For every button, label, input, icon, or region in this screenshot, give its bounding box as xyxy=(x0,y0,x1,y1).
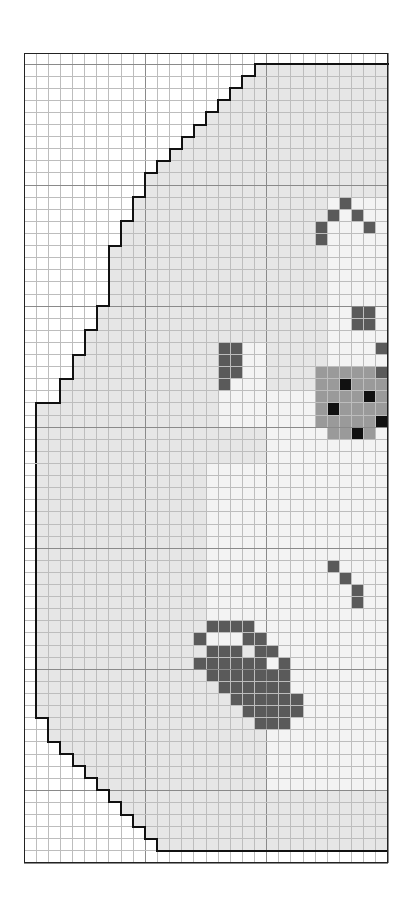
grid-line-horizontal xyxy=(24,366,388,367)
grid-line-horizontal xyxy=(24,499,388,500)
pattern-outline xyxy=(35,633,37,645)
grid-line-horizontal xyxy=(24,632,388,633)
grid-line-horizontal xyxy=(24,838,388,839)
pattern-outline xyxy=(84,330,86,342)
grid-line-horizontal xyxy=(24,778,388,779)
grid-line-horizontal xyxy=(24,487,388,488)
pattern-outline xyxy=(35,512,37,524)
pattern-outline xyxy=(35,609,37,621)
grid-line-horizontal xyxy=(24,148,388,149)
pattern-outline xyxy=(47,718,49,730)
pattern-outline xyxy=(132,826,146,828)
pattern-outline xyxy=(35,717,49,719)
grid-line-horizontal xyxy=(24,645,388,646)
pattern-outline xyxy=(35,669,37,681)
grid-line-horizontal xyxy=(24,524,388,525)
grid-line-horizontal xyxy=(24,754,388,755)
grid-line-horizontal xyxy=(24,729,388,730)
grid-line-horizontal xyxy=(24,790,388,791)
pattern-outline xyxy=(96,306,98,318)
grid-line-horizontal xyxy=(24,209,388,210)
grid-line-horizontal xyxy=(24,160,388,161)
stitch-chart-grid xyxy=(24,53,388,863)
grid-line-horizontal xyxy=(24,390,388,391)
grid-line-horizontal xyxy=(24,863,388,864)
grid-line-horizontal xyxy=(24,88,388,89)
grid-line-horizontal xyxy=(24,221,388,222)
grid-line-horizontal xyxy=(24,669,388,670)
pattern-outline xyxy=(35,560,37,572)
grid-line-horizontal xyxy=(24,548,388,549)
pattern-outline xyxy=(47,741,61,743)
grid-line-horizontal xyxy=(24,572,388,573)
pattern-outline xyxy=(35,536,37,548)
grid-line-horizontal xyxy=(24,439,388,440)
grid-line-horizontal xyxy=(24,741,388,742)
pattern-outline xyxy=(35,451,37,463)
pattern-outline xyxy=(35,403,37,415)
pattern-outline xyxy=(132,197,134,209)
grid-line-horizontal xyxy=(24,185,388,186)
pattern-outline xyxy=(35,681,37,693)
pattern-outline xyxy=(35,694,37,706)
pattern-outline xyxy=(205,111,219,113)
grid-line-horizontal xyxy=(24,172,388,173)
grid-line-horizontal xyxy=(24,657,388,658)
pattern-outline xyxy=(217,99,231,101)
pattern-outline xyxy=(156,160,170,162)
grid-line-horizontal xyxy=(24,584,388,585)
pattern-outline xyxy=(35,548,37,560)
pattern-outline xyxy=(144,838,158,840)
pattern-outline xyxy=(72,354,86,356)
grid-line-horizontal xyxy=(24,475,388,476)
pattern-outline xyxy=(35,585,37,597)
pattern-outline xyxy=(144,172,158,174)
grid-line-horizontal xyxy=(24,596,388,597)
pattern-outline xyxy=(241,75,255,77)
grid-line-horizontal xyxy=(24,281,388,282)
pattern-outline xyxy=(108,270,110,282)
pattern-outline xyxy=(156,850,388,852)
grid-line-horizontal xyxy=(24,536,388,537)
grid-line-horizontal xyxy=(24,511,388,512)
pattern-outline xyxy=(84,777,98,779)
pattern-outline xyxy=(72,355,74,367)
pattern-outline xyxy=(35,439,37,451)
grid-line-horizontal xyxy=(24,620,388,621)
pattern-outline xyxy=(144,173,146,185)
grid-line-horizontal xyxy=(24,306,388,307)
grid-line-horizontal xyxy=(24,53,388,54)
grid-line-horizontal xyxy=(24,245,388,246)
pattern-outline xyxy=(35,464,37,476)
grid-line-horizontal xyxy=(24,269,388,270)
pattern-outline xyxy=(193,124,207,126)
pattern-outline xyxy=(254,63,388,65)
pattern-outline xyxy=(35,500,37,512)
pattern-outline xyxy=(84,329,98,331)
grid-line-horizontal xyxy=(24,100,388,101)
pattern-outline xyxy=(120,221,122,233)
grid-line-horizontal xyxy=(24,560,388,561)
grid-line-horizontal xyxy=(24,427,388,428)
pattern-outline xyxy=(35,488,37,500)
grid-line-horizontal xyxy=(24,76,388,77)
pattern-outline xyxy=(120,220,134,222)
pattern-outline xyxy=(35,572,37,584)
grid-line-horizontal xyxy=(24,693,388,694)
pattern-outline xyxy=(132,196,146,198)
pattern-outline xyxy=(108,246,110,258)
grid-line-horizontal xyxy=(24,705,388,706)
grid-line-horizontal xyxy=(24,814,388,815)
pattern-outline xyxy=(59,753,73,755)
pattern-outline xyxy=(96,789,110,791)
grid-line-horizontal xyxy=(24,451,388,452)
pattern-outline xyxy=(35,427,37,439)
pattern-outline xyxy=(35,597,37,609)
pattern-outline xyxy=(35,657,37,669)
pattern-outline xyxy=(108,282,110,294)
pattern-outline xyxy=(35,476,37,488)
grid-line-horizontal xyxy=(24,402,388,403)
pattern-outline xyxy=(96,305,110,307)
pattern-outline xyxy=(169,148,183,150)
grid-line-horizontal xyxy=(24,717,388,718)
